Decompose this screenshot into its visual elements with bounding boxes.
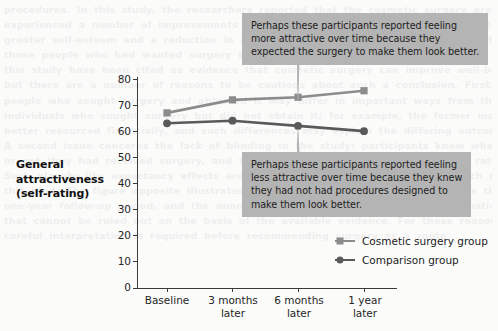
y-tick-mark-40: [133, 183, 137, 184]
series-markers-comparison-group: [163, 117, 368, 135]
callout-surgery-line-2: more attractive over time because they: [251, 32, 479, 45]
y-tick-label-0: 0: [105, 281, 131, 293]
callout-comparison-line-2: less attractive over time because they k…: [251, 171, 462, 184]
data-point-cosmetic-surgery-group-3-months-later: [229, 96, 236, 103]
callout-comparison-line-3: they had not had procedures designed to: [251, 184, 462, 197]
y-axis-line: [137, 77, 138, 289]
y-tick-label-10: 10: [105, 255, 131, 267]
line-chart: General attractiveness (self-rating) 80 …: [0, 0, 498, 331]
y-tick-mark-50: [133, 157, 137, 158]
callout-surgery-line-3: expected the surgery to make them look b…: [251, 45, 479, 58]
x-tick-mark-6months: [298, 288, 299, 292]
legend-marker-square-icon: [335, 236, 355, 246]
series-line-cosmetic-surgery-group: [167, 91, 364, 113]
x-axis-line: [137, 288, 397, 289]
legend: Cosmetic surgery group Comparison group: [335, 231, 488, 269]
series-line-comparison-group: [167, 121, 364, 131]
callout-comparison-line-1: Perhaps these participants reported feel…: [251, 158, 462, 171]
y-tick-label-50: 50: [105, 151, 131, 163]
y-tick-label-80: 80: [105, 73, 131, 85]
y-tick-mark-0: [133, 288, 137, 289]
y-axis-title: General attractiveness (self-rating): [16, 158, 104, 202]
y-tick-mark-20: [133, 235, 137, 236]
data-point-comparison-group-6-months-later: [294, 122, 302, 130]
callout-comparison-line-4: make them look better.: [251, 198, 462, 211]
legend-label-comparison-group: Comparison group: [362, 254, 459, 266]
callout-surgery-line-1: Perhaps these participants reported feel…: [251, 19, 479, 32]
legend-item-comparison-group[interactable]: Comparison group: [335, 250, 488, 269]
legend-marker-circle-icon: [335, 255, 355, 265]
legend-label-cosmetic-surgery-group: Cosmetic surgery group: [362, 235, 488, 247]
data-point-comparison-group-1-year-later: [360, 127, 368, 135]
y-tick-mark-60: [133, 131, 137, 132]
callout-connector-surgery: [297, 59, 300, 101]
y-axis-title-line-1: General: [16, 158, 104, 173]
legend-item-cosmetic-surgery-group[interactable]: Cosmetic surgery group: [335, 231, 488, 250]
data-point-comparison-group-baseline: [163, 119, 171, 127]
y-axis-title-line-3: (self-rating): [16, 187, 104, 202]
series-markers-cosmetic-surgery-group: [163, 87, 367, 116]
data-point-cosmetic-surgery-group-1-year-later: [360, 87, 367, 94]
x-tick-label-1-year-later: 1 year later: [325, 294, 405, 319]
callout-surgery: Perhaps these participants reported feel…: [242, 13, 488, 65]
x-tick-mark-1year: [364, 288, 365, 292]
y-tick-label-20: 20: [105, 229, 131, 241]
data-point-comparison-group-3-months-later: [229, 117, 237, 125]
data-point-cosmetic-surgery-group-baseline: [163, 109, 170, 116]
y-tick-mark-70: [133, 105, 137, 106]
y-tick-label-40: 40: [105, 177, 131, 189]
x-tick-mark-3months: [232, 288, 233, 292]
callout-comparison: Perhaps these participants reported feel…: [242, 152, 471, 217]
y-tick-label-30: 30: [105, 203, 131, 215]
y-tick-label-60: 60: [105, 125, 131, 137]
y-tick-mark-10: [133, 261, 137, 262]
y-tick-mark-30: [133, 209, 137, 210]
callout-connector-comparison: [297, 129, 300, 152]
y-tick-label-70: 70: [105, 99, 131, 111]
y-tick-mark-80: [133, 79, 137, 80]
y-axis-title-line-2: attractiveness: [16, 173, 104, 188]
x-tick-mark-baseline: [167, 288, 168, 292]
